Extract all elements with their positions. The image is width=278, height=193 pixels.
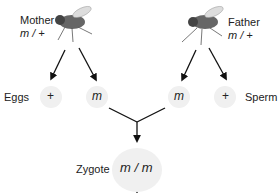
mother-label: Mother (20, 14, 54, 26)
egg-allele-plus: + (47, 89, 54, 103)
sperm-allele-m: m (174, 89, 184, 103)
zygote-genotype: m / m (120, 160, 153, 175)
eggs-label: Eggs (4, 91, 29, 103)
egg-allele-m: m (92, 89, 102, 103)
sperm-allele-plus: + (222, 89, 229, 103)
sperm-label: Sperm (245, 91, 277, 103)
father-genotype: m / + (228, 29, 253, 41)
father-label: Father (228, 16, 260, 28)
mother-fly-icon (55, 4, 93, 42)
mother-genotype: m / + (20, 27, 45, 39)
zygote-label: Zygote (76, 163, 110, 175)
father-fly-icon (182, 4, 225, 45)
